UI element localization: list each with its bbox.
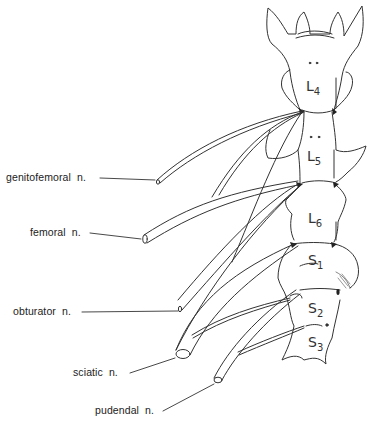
label-l4: L4 [306,78,320,97]
label-s2: S2 [308,300,323,319]
label-pudendal-nerve: pudendal n. [95,404,154,416]
nerve-genitofemoral [156,111,302,184]
label-femoral-nerve: femoral n. [30,226,81,238]
label-l5: L5 [307,148,321,167]
label-genitofemoral-nerve: genitofemoral n. [6,171,86,183]
label-l6: L6 [308,210,322,229]
nerve-sciatic [176,186,300,359]
label-s3: S3 [308,334,323,353]
label-s1: S1 [308,252,323,271]
lumbosacral-nerve-diagram: L4 L5 L6 S1 S2 S3 genitofemoral n. femor… [0,0,376,423]
label-sciatic-nerve: sciatic n. [73,366,118,378]
nerve-obturator [178,112,302,312]
label-obturator-nerve: obturator n. [13,305,71,317]
nerve-pudendal [214,290,304,383]
